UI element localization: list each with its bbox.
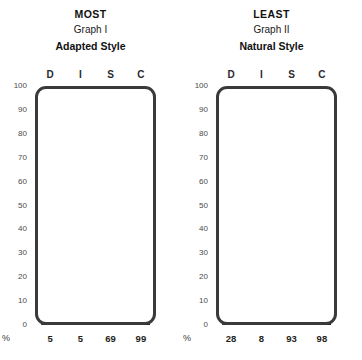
plot-area-1 — [35, 86, 156, 325]
plot-area-2 — [216, 86, 337, 325]
value-labels-1: 5 5 69 99 — [35, 333, 156, 347]
bars-1 — [35, 86, 156, 325]
y-tick-90-1: 90 — [18, 106, 27, 114]
column-header-c-1: C — [137, 68, 144, 81]
y-tick-60-2: 60 — [199, 178, 208, 186]
value-label-i-2: 8 — [259, 333, 264, 345]
column-header-s-1: S — [107, 68, 114, 81]
y-tick-90-2: 90 — [199, 106, 208, 114]
y-tick-60-1: 60 — [18, 178, 27, 186]
value-label-s-1: 69 — [105, 333, 116, 345]
y-tick-100-2: 100 — [195, 82, 208, 90]
bar-c-1 — [132, 88, 150, 325]
percent-symbol-1: % — [2, 333, 10, 343]
y-tick-40-1: 40 — [18, 225, 27, 233]
y-tick-40-2: 40 — [199, 225, 208, 233]
value-label-d-1: 5 — [47, 333, 52, 345]
y-tick-80-1: 80 — [18, 130, 27, 138]
y-tick-50-1: 50 — [18, 202, 27, 210]
y-axis-labels-1: 100 90 80 70 60 50 40 30 20 10 0 — [0, 86, 31, 325]
y-tick-100-1: 100 — [14, 82, 27, 90]
y-tick-10-2: 10 — [199, 297, 208, 305]
graph-style-natural: Natural Style — [181, 38, 362, 54]
graph-heading-group-1: MOST Graph I Adapted Style — [0, 6, 181, 54]
y-tick-10-1: 10 — [18, 297, 27, 305]
bar-d-1 — [41, 313, 59, 325]
value-label-c-2: 98 — [317, 333, 328, 345]
y-tick-50-2: 50 — [199, 202, 208, 210]
value-labels-2: 28 8 93 98 — [216, 333, 337, 347]
y-tick-70-2: 70 — [199, 154, 208, 162]
column-header-c-2: C — [318, 68, 325, 81]
column-header-i-1: I — [79, 68, 82, 81]
graph-panel-most: MOST Graph I Adapted Style D I S C 100 9… — [0, 0, 181, 360]
bar-i-2 — [252, 306, 270, 325]
column-header-i-2: I — [260, 68, 263, 81]
y-tick-20-1: 20 — [18, 273, 27, 281]
value-label-d-2: 28 — [226, 333, 237, 345]
y-tick-0-1: 0 — [23, 321, 27, 329]
column-headers-2: D I S C — [216, 68, 337, 82]
column-header-s-2: S — [288, 68, 295, 81]
graph-subtitle-graph-i: Graph I — [0, 22, 181, 38]
y-tick-30-1: 30 — [18, 249, 27, 257]
disc-report-graphs: MOST Graph I Adapted Style D I S C 100 9… — [0, 0, 362, 360]
bar-d-2 — [222, 258, 240, 325]
y-axis-labels-2: 100 90 80 70 60 50 40 30 20 10 0 — [181, 86, 212, 325]
graph-style-adapted: Adapted Style — [0, 38, 181, 54]
y-tick-30-2: 30 — [199, 249, 208, 257]
graph-panel-least: LEAST Graph II Natural Style D I S C 100… — [181, 0, 362, 360]
column-header-d-1: D — [46, 68, 53, 81]
y-tick-70-1: 70 — [18, 154, 27, 162]
graph-subtitle-graph-ii: Graph II — [181, 22, 362, 38]
y-tick-0-2: 0 — [204, 321, 208, 329]
value-label-c-1: 99 — [136, 333, 147, 345]
bar-i-1 — [71, 313, 89, 325]
graph-title-most: MOST — [0, 6, 181, 22]
column-headers-1: D I S C — [35, 68, 156, 82]
y-tick-20-2: 20 — [199, 273, 208, 281]
bar-c-2 — [313, 91, 331, 325]
value-label-s-2: 93 — [286, 333, 297, 345]
bar-s-1 — [102, 160, 120, 325]
bar-s-2 — [283, 103, 301, 325]
column-header-d-2: D — [227, 68, 234, 81]
bars-2 — [216, 86, 337, 325]
y-tick-80-2: 80 — [199, 130, 208, 138]
percent-symbol-2: % — [183, 333, 191, 343]
graph-title-least: LEAST — [181, 6, 362, 22]
value-label-i-1: 5 — [78, 333, 83, 345]
graph-heading-group-2: LEAST Graph II Natural Style — [181, 6, 362, 54]
